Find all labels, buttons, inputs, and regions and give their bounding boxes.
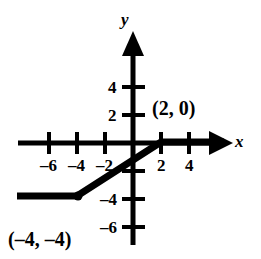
x-axis-name-label: x <box>235 133 244 150</box>
x-tick-label-2: 2 <box>157 157 166 174</box>
point-label--4--4: (–4, –4) <box>8 229 71 249</box>
y-tick-label-2: 2 <box>108 107 117 124</box>
y-axis-arrowhead-icon <box>122 31 144 56</box>
y-tick-label-4: 4 <box>108 79 117 96</box>
y-axis-name-label: y <box>121 11 129 28</box>
x-tick-label-4: 4 <box>185 157 194 174</box>
y-tick-label--4: –4 <box>100 191 117 208</box>
point-label-2-0: (2, 0) <box>152 98 195 118</box>
vertex-point--4--4 <box>74 192 83 201</box>
x-tick-label--6: –6 <box>40 157 57 174</box>
y-tick-label--6: –6 <box>100 219 117 236</box>
x-tick-label--2: –2 <box>96 157 113 174</box>
y-axis <box>122 31 144 245</box>
coordinate-plane-svg <box>0 0 261 259</box>
graph-figure: y x –6 –4 –2 2 4 4 2 –4 –6 (2, 0) (–4, –… <box>0 0 261 259</box>
x-tick-label--4: –4 <box>68 157 85 174</box>
